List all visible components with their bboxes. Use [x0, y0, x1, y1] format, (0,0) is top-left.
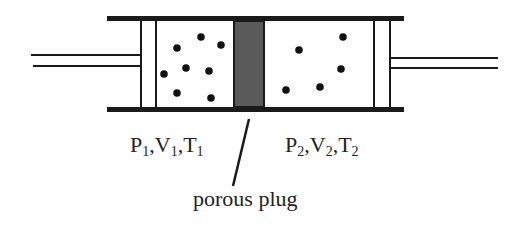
left-gas-molecules	[160, 33, 225, 102]
left-piston-rod	[31, 55, 141, 66]
right-state-label: P2,V2,T2	[285, 132, 359, 160]
right-gas-molecules	[282, 33, 347, 94]
right-piston	[374, 21, 390, 107]
porous-plug	[234, 21, 264, 107]
left-state-label: P1,V1,T1	[130, 132, 204, 160]
left-piston	[141, 21, 156, 107]
right-piston-rod	[390, 58, 498, 68]
porous-plug-label: porous plug	[193, 186, 298, 212]
plug-leader-line	[233, 119, 249, 186]
